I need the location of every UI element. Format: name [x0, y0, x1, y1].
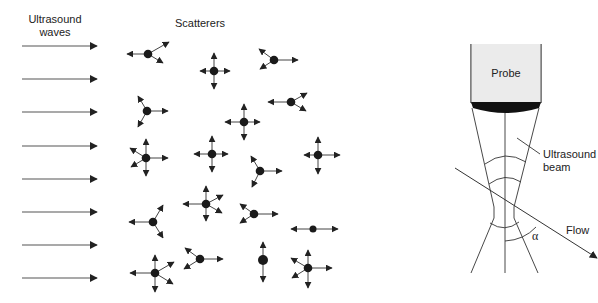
scatterer: [291, 250, 332, 288]
beam-right-edge: [514, 108, 539, 273]
scatterer-dot: [210, 67, 219, 76]
scatterer: [225, 104, 260, 140]
scatterer: [304, 137, 340, 174]
angle-label: α: [532, 229, 539, 243]
beam-label-line1: Ultrasound: [543, 148, 596, 160]
scatterer: [268, 93, 307, 111]
scatterer-dot: [196, 255, 205, 264]
scatterer: [200, 53, 230, 89]
scatterer-dot: [142, 154, 151, 163]
scatterer-dot: [314, 151, 323, 160]
wavefront-arc-3: [490, 222, 519, 228]
incident-waves: [22, 46, 97, 278]
scatterer-dot: [149, 218, 158, 227]
scatterer-dot: [208, 150, 217, 159]
scatterer: [183, 186, 223, 221]
scatterer: [138, 96, 168, 127]
beam-label-leader: [517, 138, 540, 154]
diagram-canvas: Ultrasound waves Scatterers Probe α Flow…: [0, 0, 598, 303]
scatterers-label: Scatterers: [175, 17, 226, 29]
scatterer: [258, 242, 268, 282]
scatterer-dot: [258, 255, 268, 265]
scatterer-dot: [144, 50, 153, 59]
probe-label: Probe: [491, 67, 520, 79]
scatterer-dot: [151, 269, 160, 278]
scatterer: [194, 136, 228, 172]
wavefront-arc-1: [485, 156, 526, 164]
scatterer: [259, 49, 298, 69]
scatterer-dot: [304, 264, 313, 273]
flow-label: Flow: [566, 224, 589, 236]
probe-lens: [471, 102, 541, 113]
probe-diagram: Probe α Flow Ultrasound beam: [455, 44, 597, 273]
beam-label-line2: beam: [543, 161, 571, 173]
scatterer: [251, 156, 282, 187]
scatterer: [130, 255, 174, 292]
scatterer-dot: [270, 56, 279, 65]
scatterer: [129, 205, 163, 238]
scatterer: [127, 42, 169, 63]
scatterers-group: [127, 42, 340, 292]
scatterer: [240, 204, 278, 223]
scatterer-dot: [240, 118, 249, 127]
waves-label-line2: waves: [38, 26, 71, 38]
scatterer-dot: [256, 167, 265, 176]
scatterer-dot: [250, 210, 259, 219]
scatterer-dot: [202, 200, 211, 209]
scatterer: [130, 139, 168, 176]
scatterer-dot: [143, 107, 152, 116]
scatterer-dot: [287, 98, 296, 107]
scatterer: [184, 248, 223, 269]
scatterer-dot: [310, 226, 317, 233]
scatterer: [291, 226, 338, 233]
waves-label-line1: Ultrasound: [28, 13, 81, 25]
